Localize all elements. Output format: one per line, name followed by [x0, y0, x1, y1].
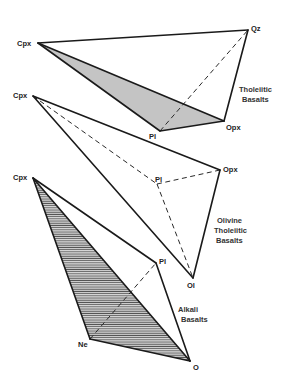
vertex-label-opx: Opx — [223, 165, 238, 174]
basalt-tetrahedra-diagram: Cpx Qz Pl Opx Tholeiitic Basalts Cpx Opx… — [0, 0, 282, 384]
vertex-label-o: O — [193, 363, 199, 372]
caption-line-1: Olivine — [217, 216, 242, 225]
caption-line-1: Alkali — [178, 305, 198, 314]
edge-cpx-qz — [38, 30, 248, 43]
vertex-label-opx: Opx — [226, 123, 241, 132]
tetrahedron-alkali-basalts: Cpx Pl Ne O Alkali Basalts — [13, 173, 208, 372]
edge-qz-opx — [224, 30, 248, 121]
caption-line-2: Tholeiitic — [214, 226, 247, 235]
caption-line-3: Basalts — [216, 236, 243, 245]
vertex-label-pl: Pl — [159, 257, 166, 266]
vertex-label-pl: Pl — [155, 175, 162, 184]
caption-line-2: Basalts — [242, 95, 269, 104]
vertex-label-qz: Qz — [251, 24, 261, 33]
vertex-label-cpx: Cpx — [13, 173, 28, 182]
caption-line-1: Tholeiitic — [239, 85, 272, 94]
vertex-label-ol: Ol — [187, 281, 195, 290]
vertex-label-cpx: Cpx — [17, 39, 32, 48]
vertex-label-ne: Ne — [78, 340, 88, 349]
caption-line-2: Basalts — [181, 315, 208, 324]
shaded-face-cpx-pl-opx — [38, 43, 224, 131]
edge-opx-ol — [193, 170, 220, 278]
vertex-label-pl: Pl — [149, 132, 156, 141]
dashed-edge-pl-opx — [157, 170, 220, 184]
tetrahedron-tholeiitic-basalts: Cpx Qz Pl Opx Tholeiitic Basalts — [17, 24, 272, 141]
vertex-label-cpx: Cpx — [13, 91, 28, 100]
